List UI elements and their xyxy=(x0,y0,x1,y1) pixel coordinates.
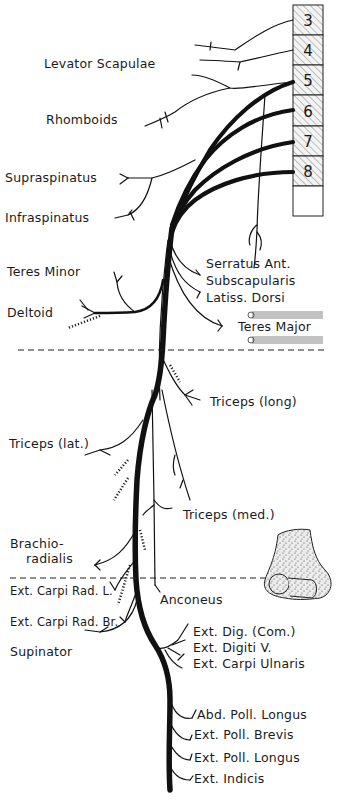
label-brachioradialis-line2: radialis xyxy=(26,551,73,566)
triceps-med-nerve xyxy=(162,390,190,500)
label-teres-major: Teres Major xyxy=(237,319,312,334)
c3-root xyxy=(195,20,293,50)
label-triceps-med: Triceps (med.) xyxy=(182,507,275,522)
latissimus-branch xyxy=(169,248,200,292)
label-ext-carpi-rad-l: Ext. Carpi Rad. L. xyxy=(10,584,113,598)
label-triceps-long: Triceps (long) xyxy=(209,394,297,409)
label-ext-indicis: Ext. Indicis xyxy=(194,771,264,786)
segment-label-8: 8 xyxy=(303,163,313,181)
label-teres-minor: Teres Minor xyxy=(6,264,81,279)
teres-minor-branch xyxy=(114,272,135,312)
label-latiss-dorsi: Latiss. Dorsi xyxy=(206,290,285,305)
label-brachioradialis-line1: Brachio- xyxy=(10,536,64,551)
ext-digiti-branch xyxy=(168,648,180,655)
label-ext-carpi-rad-br: Ext. Carpi Rad. Br. xyxy=(10,615,118,629)
spinal-segment-column: 3 4 5 6 7 8 xyxy=(293,5,323,216)
axillary-branches xyxy=(68,272,163,328)
ecrl-branch xyxy=(115,560,135,590)
suprascapular-branch xyxy=(128,160,195,178)
anconeus-nerve xyxy=(152,390,155,585)
abd-poll-longus-branch xyxy=(170,700,192,718)
segment-label-6: 6 xyxy=(303,103,313,121)
c4-root xyxy=(200,50,293,62)
axillary-nerve xyxy=(95,280,163,313)
label-levator-scapulae: Levator Scapulae xyxy=(44,56,156,71)
label-subscapularis: Subscapularis xyxy=(206,273,296,288)
label-ext-poll-longus: Ext. Poll. Longus xyxy=(194,750,300,765)
label-serratus-ant: Serratus Ant. xyxy=(206,256,291,271)
label-abd-poll-longus: Abd. Poll. Longus xyxy=(197,707,307,722)
forearm-branches xyxy=(85,530,196,780)
brachioradialis-branch xyxy=(95,530,136,565)
triceps-lat-branch xyxy=(85,420,143,455)
triceps-branches xyxy=(85,355,200,605)
label-ext-carpi-ulnaris: Ext. Carpi Ulnaris xyxy=(193,656,305,671)
label-ext-poll-brevis: Ext. Poll. Brevis xyxy=(194,727,294,742)
label-ext-digiti-v: Ext. Digiti V. xyxy=(193,640,272,655)
label-supraspinatus: Supraspinatus xyxy=(5,170,97,185)
segment-label-5: 5 xyxy=(303,72,313,90)
label-triceps-lat: Triceps (lat.) xyxy=(8,436,89,451)
segment-box-t1 xyxy=(293,186,323,216)
segment-label-7: 7 xyxy=(303,133,313,151)
labels-right: Serratus Ant. Subscapularis Latiss. Dors… xyxy=(160,256,312,786)
segment-label-3: 3 xyxy=(303,12,313,30)
label-rhomboids: Rhomboids xyxy=(46,112,118,127)
radial-nerve-diagram: 3 4 5 6 7 8 xyxy=(0,0,343,801)
segment-label-4: 4 xyxy=(303,42,313,60)
label-infraspinatus: Infraspinatus xyxy=(5,210,89,225)
label-ext-dig-com: Ext. Dig. (Com.) xyxy=(193,624,296,639)
triceps-long-branch xyxy=(161,355,200,400)
label-anconeus: Anconeus xyxy=(160,592,223,607)
c6-root xyxy=(172,110,293,225)
label-supinator: Supinator xyxy=(10,644,73,659)
label-deltoid: Deltoid xyxy=(7,305,53,320)
humerus-elbow-bone xyxy=(264,529,331,599)
rhomboids-branch xyxy=(145,88,230,126)
